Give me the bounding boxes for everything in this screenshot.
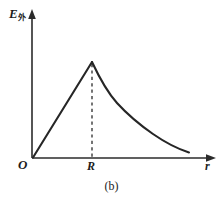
- figure-caption: (b): [0, 180, 223, 192]
- y-axis-symbol: E: [9, 6, 18, 21]
- inside-linear-segment: [33, 62, 92, 158]
- outside-decay-curve: [92, 62, 189, 153]
- figure-container: E外 O R r (b): [0, 0, 223, 201]
- y-axis-subscript: 外: [18, 13, 26, 22]
- x-axis-label: r: [205, 160, 210, 172]
- x-tick-label-R: R: [87, 160, 95, 172]
- y-axis-label: E外: [9, 7, 26, 22]
- y-axis-arrow-icon: [28, 9, 36, 19]
- origin-label: O: [18, 158, 27, 171]
- plot-canvas: [0, 0, 223, 201]
